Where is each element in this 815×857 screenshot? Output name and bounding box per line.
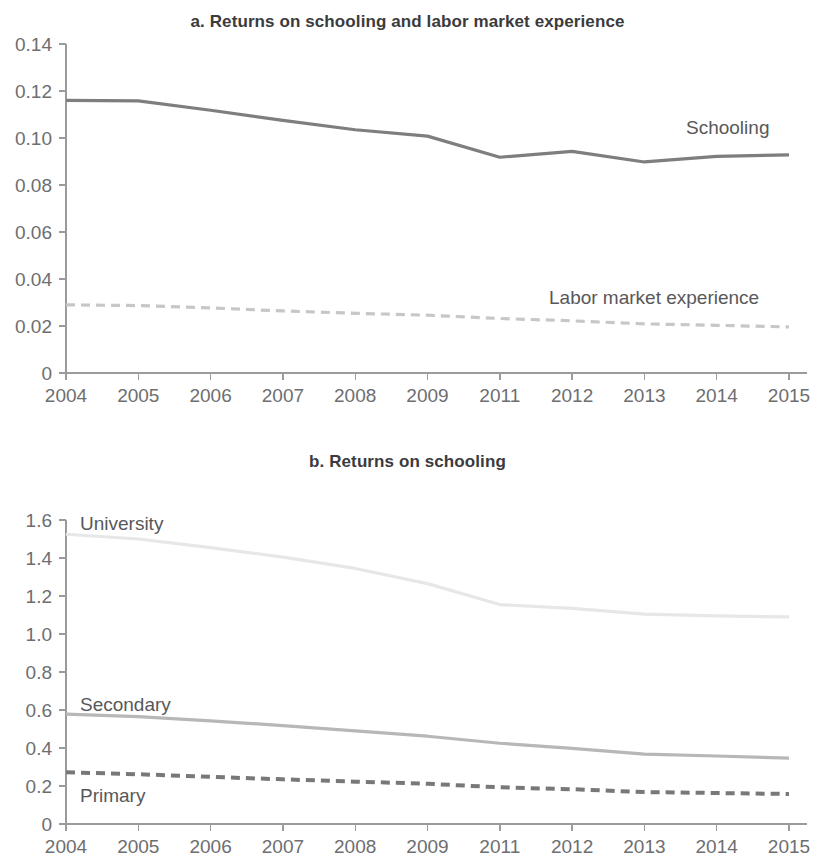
panel-b-plot-area: 00.20.40.60.81.01.21.41.6200420052006200… bbox=[0, 472, 815, 857]
x-tick-label: 2008 bbox=[334, 836, 376, 857]
y-tick-label: 1.2 bbox=[26, 586, 52, 607]
x-tick-label: 2005 bbox=[117, 385, 159, 406]
x-tick-label: 2009 bbox=[406, 836, 448, 857]
y-tick-label: 1.0 bbox=[26, 624, 52, 645]
x-tick-label: 2004 bbox=[45, 836, 88, 857]
x-tick-label: 2007 bbox=[262, 836, 304, 857]
panel-a-svg: 00.020.040.060.080.100.120.1420042005200… bbox=[0, 32, 815, 422]
y-tick-label: 0 bbox=[41, 363, 52, 384]
series-label-university: University bbox=[80, 513, 164, 534]
series-line-schooling bbox=[66, 100, 789, 162]
y-tick-label: 0.2 bbox=[26, 776, 52, 797]
series-label-primary: Primary bbox=[80, 785, 146, 806]
chart-panel-b: b. Returns on schooling 00.20.40.60.81.0… bbox=[0, 430, 815, 852]
x-tick-label: 2014 bbox=[696, 385, 739, 406]
y-tick-label: 0.6 bbox=[26, 700, 52, 721]
y-tick-label: 0.12 bbox=[15, 81, 52, 102]
series-label-secondary: Secondary bbox=[80, 694, 171, 715]
x-tick-label: 2011 bbox=[479, 385, 520, 406]
y-tick-label: 1.6 bbox=[26, 510, 52, 531]
series-line-primary bbox=[66, 772, 789, 794]
y-tick-label: 0 bbox=[41, 814, 52, 835]
x-tick-label: 2008 bbox=[334, 385, 376, 406]
panel-a-plot-area: 00.020.040.060.080.100.120.1420042005200… bbox=[0, 32, 815, 422]
x-tick-label: 2004 bbox=[45, 385, 88, 406]
x-tick-label: 2013 bbox=[623, 836, 665, 857]
y-tick-label: 0.08 bbox=[15, 175, 52, 196]
x-tick-label: 2014 bbox=[696, 836, 739, 857]
y-tick-label: 0.10 bbox=[15, 128, 52, 149]
x-tick-label: 2005 bbox=[117, 836, 159, 857]
series-line-secondary bbox=[66, 714, 789, 758]
y-tick-label: 1.4 bbox=[26, 548, 53, 569]
y-tick-label: 0.06 bbox=[15, 222, 52, 243]
x-tick-label: 2009 bbox=[406, 385, 448, 406]
y-tick-label: 0.02 bbox=[15, 316, 52, 337]
series-line-labor-market-experience bbox=[66, 305, 789, 327]
series-line-university bbox=[66, 534, 789, 617]
chart-panel-a: a. Returns on schooling and labor market… bbox=[0, 0, 815, 430]
x-tick-label: 2011 bbox=[479, 836, 520, 857]
y-tick-label: 0.8 bbox=[26, 662, 52, 683]
x-tick-label: 2015 bbox=[768, 836, 810, 857]
y-tick-label: 0.04 bbox=[15, 269, 52, 290]
x-tick-label: 2007 bbox=[262, 385, 304, 406]
x-tick-label: 2012 bbox=[551, 836, 593, 857]
series-label-schooling: Schooling bbox=[686, 117, 769, 138]
x-tick-label: 2015 bbox=[768, 385, 810, 406]
x-tick-label: 2006 bbox=[189, 385, 231, 406]
panel-a-title: a. Returns on schooling and labor market… bbox=[0, 0, 815, 32]
panel-b-svg: 00.20.40.60.81.01.21.41.6200420052006200… bbox=[0, 472, 815, 857]
x-tick-label: 2006 bbox=[189, 836, 231, 857]
x-tick-label: 2013 bbox=[623, 385, 665, 406]
series-label-labor-market-experience: Labor market experience bbox=[549, 287, 759, 308]
y-tick-label: 0.14 bbox=[15, 34, 52, 55]
y-tick-label: 0.4 bbox=[26, 738, 53, 759]
x-tick-label: 2012 bbox=[551, 385, 593, 406]
axis-lines bbox=[66, 520, 807, 824]
panel-b-title: b. Returns on schooling bbox=[0, 430, 815, 472]
